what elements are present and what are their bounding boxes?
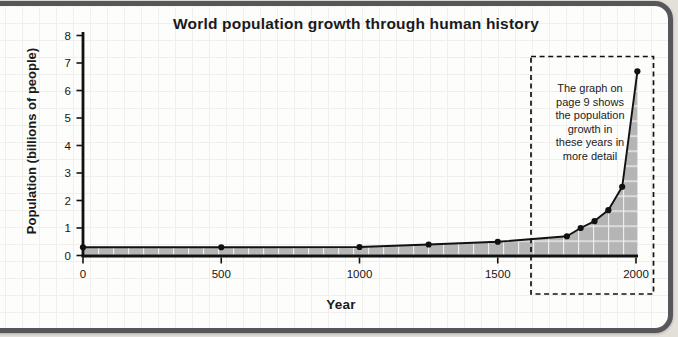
svg-text:8: 8 xyxy=(65,30,71,42)
chart-title: World population growth through human hi… xyxy=(106,15,606,33)
svg-text:4: 4 xyxy=(65,140,72,152)
svg-text:3: 3 xyxy=(65,167,71,179)
annotation-text: The graph on page 9 shows the population… xyxy=(534,82,646,164)
x-axis-label: Year xyxy=(296,297,386,312)
svg-text:1500: 1500 xyxy=(485,268,511,280)
y-axis-label: Population (billions of people) xyxy=(24,31,44,251)
svg-text:6: 6 xyxy=(65,85,71,97)
svg-text:5: 5 xyxy=(65,112,71,124)
svg-text:1000: 1000 xyxy=(347,268,373,280)
svg-text:0: 0 xyxy=(80,268,86,280)
svg-text:0: 0 xyxy=(65,250,71,262)
svg-text:2: 2 xyxy=(65,195,71,207)
svg-text:2000: 2000 xyxy=(623,268,649,280)
population-area-chart: 0123456780500100015002000 xyxy=(0,0,678,337)
svg-text:1: 1 xyxy=(65,222,71,234)
svg-text:7: 7 xyxy=(65,57,71,69)
page: 0123456780500100015002000 World populati… xyxy=(0,0,678,337)
svg-text:500: 500 xyxy=(212,268,231,280)
